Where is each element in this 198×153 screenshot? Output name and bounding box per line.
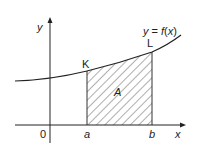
y-axis-label: y bbox=[36, 21, 44, 33]
point-L-label: L bbox=[147, 37, 153, 49]
function-label: y = f(x) bbox=[142, 25, 177, 37]
bound-b-label: b bbox=[149, 128, 155, 140]
y-axis-arrow-icon bbox=[48, 17, 53, 23]
area-label: A bbox=[113, 86, 121, 98]
point-K-label: K bbox=[82, 58, 90, 70]
area-under-curve-diagram: y y = f(x) L K A 0 a b x bbox=[0, 0, 198, 153]
bound-a-label: a bbox=[84, 128, 90, 140]
origin-label: 0 bbox=[40, 128, 46, 140]
x-axis-label: x bbox=[174, 128, 181, 140]
x-axis-arrow-icon bbox=[180, 123, 186, 128]
